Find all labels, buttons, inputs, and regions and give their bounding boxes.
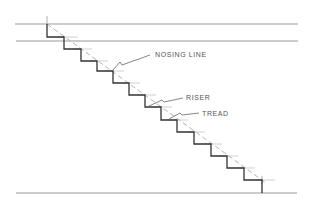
stair-diagram: NOSING LINE RISER TREAD [0, 0, 309, 209]
riser-label: RISER [186, 94, 210, 101]
nosing-extension-lines [58, 37, 275, 180]
nosing-line [47, 24, 266, 183]
nosing-line-label: NOSING LINE [155, 51, 207, 58]
stair-profile [47, 24, 262, 193]
tread-label: TREAD [202, 110, 229, 117]
nosing-line-leader [113, 55, 150, 70]
riser-leader [147, 98, 183, 107]
